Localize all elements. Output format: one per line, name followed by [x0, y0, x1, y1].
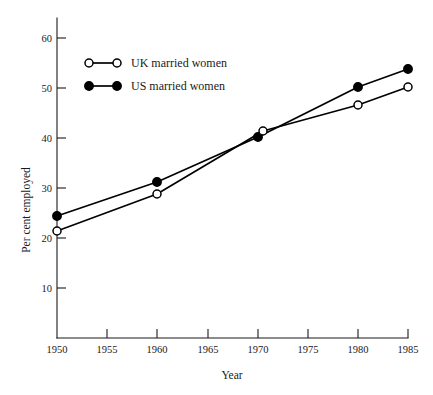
y-axis-title: Per cent employed — [20, 167, 33, 253]
data-point-us-1950 — [53, 212, 61, 220]
data-point-uk-1960 — [153, 190, 161, 198]
legend-marker-uk-left — [85, 59, 93, 67]
y-tick-label-60: 60 — [42, 33, 53, 44]
x-axis-title: Year — [221, 369, 242, 381]
x-tick-label-1985: 1985 — [398, 344, 419, 355]
data-point-uk-1985 — [404, 83, 412, 91]
y-tick-label-10: 10 — [42, 283, 53, 294]
line-chart-canvas: 60 50 40 30 20 10 1950 1955 1960 1965 19… — [0, 0, 433, 395]
y-tick-label-30: 30 — [42, 183, 53, 194]
x-tick-label-1980: 1980 — [348, 344, 369, 355]
legend-label-us: US married women — [131, 79, 225, 93]
data-point-uk-1980 — [354, 101, 362, 109]
x-tick-label-1955: 1955 — [97, 344, 118, 355]
x-tick-label-1975: 1975 — [298, 344, 319, 355]
series-uk-married-women — [53, 83, 412, 235]
x-axis-ticks: 1950 1955 1960 1965 1970 1975 1980 1985 — [47, 329, 419, 355]
x-tick-label-1950: 1950 — [47, 344, 68, 355]
x-tick-label-1965: 1965 — [198, 344, 219, 355]
y-axis-ticks: 60 50 40 30 20 10 — [42, 33, 67, 294]
legend-item-uk: UK married women — [85, 56, 227, 70]
data-point-uk-1970 — [259, 127, 267, 135]
legend-marker-us-right — [113, 82, 121, 90]
data-point-us-1985 — [404, 65, 412, 73]
chart-legend: UK married women US married women — [85, 56, 227, 93]
x-tick-label-1960: 1960 — [147, 344, 168, 355]
series-us-married-women — [53, 65, 412, 220]
data-point-us-1980 — [354, 83, 362, 91]
legend-marker-us-left — [85, 82, 93, 90]
legend-marker-uk-right — [113, 59, 121, 67]
legend-item-us: US married women — [85, 79, 225, 93]
legend-label-uk: UK married women — [131, 56, 227, 70]
y-tick-label-40: 40 — [42, 133, 53, 144]
axes-group — [57, 18, 408, 338]
y-tick-label-20: 20 — [42, 233, 53, 244]
data-point-uk-1950 — [53, 227, 61, 235]
data-point-us-1960 — [153, 178, 161, 186]
x-tick-label-1970: 1970 — [248, 344, 269, 355]
chart-figure: 60 50 40 30 20 10 1950 1955 1960 1965 19… — [0, 0, 433, 395]
y-tick-label-50: 50 — [42, 83, 53, 94]
